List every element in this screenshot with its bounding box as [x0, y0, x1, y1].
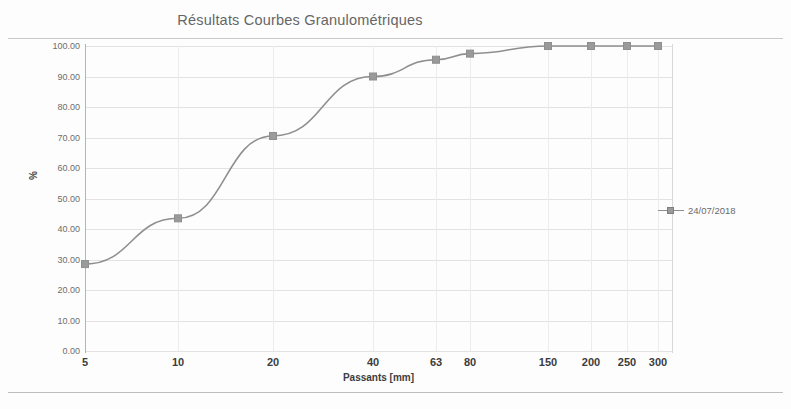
y-axis-tick-label: 10.00	[34, 316, 80, 326]
scanned-chart-page: Résultats Courbes Granulométriques 100.0…	[0, 0, 791, 409]
series-line-24-07-2018	[85, 46, 672, 351]
page-rule-bottom	[8, 392, 783, 393]
series-data-point	[624, 43, 631, 50]
y-axis-tick-label: 50.00	[34, 194, 80, 204]
chart-legend: 24/07/2018	[658, 205, 736, 216]
x-axis-tick-label: 150	[539, 356, 557, 368]
y-axis-tick-label: 60.00	[34, 163, 80, 173]
x-axis-title: Passants [mm]	[85, 372, 672, 383]
x-axis-tick-label: 80	[464, 356, 476, 368]
x-axis-tick-label: 5	[82, 356, 88, 368]
x-axis-tick-label: 40	[367, 356, 379, 368]
page-rule-top	[8, 38, 783, 39]
y-axis-title: %	[28, 171, 39, 180]
chart-title: Résultats Courbes Granulométriques	[0, 12, 600, 28]
series-data-point	[175, 215, 182, 222]
series-data-point	[82, 261, 89, 268]
y-axis-tick-label: 0.00	[34, 346, 80, 356]
y-axis-tick-label: 100.00	[34, 41, 80, 51]
x-axis-tick-label: 63	[430, 356, 442, 368]
x-axis-tick-label: 250	[618, 356, 636, 368]
y-axis-tick-label: 20.00	[34, 285, 80, 295]
series-data-point	[588, 43, 595, 50]
series-data-point	[370, 73, 377, 80]
series-data-point	[467, 50, 474, 57]
y-axis-tick-labels: 100.0090.0080.0070.0060.0050.0040.0030.0…	[28, 46, 80, 351]
series-data-point	[655, 43, 662, 50]
x-axis-tick-label: 10	[172, 356, 184, 368]
y-axis-tick-label: 90.00	[34, 72, 80, 82]
legend-item-label: 24/07/2018	[688, 205, 736, 216]
series-data-point	[545, 43, 552, 50]
series-data-point	[270, 132, 277, 139]
y-axis-tick-label: 70.00	[34, 133, 80, 143]
x-axis-tick-label: 200	[582, 356, 600, 368]
y-axis-tick-label: 80.00	[34, 102, 80, 112]
x-axis-tick-label: 300	[649, 356, 667, 368]
legend-marker-icon	[658, 206, 684, 215]
series-data-point	[433, 56, 440, 63]
plot-right-border	[672, 44, 673, 353]
y-axis-tick-label: 30.00	[34, 255, 80, 265]
y-axis-tick-label: 40.00	[34, 224, 80, 234]
gridline-horizontal	[85, 351, 672, 352]
x-axis-tick-label: 20	[267, 356, 279, 368]
